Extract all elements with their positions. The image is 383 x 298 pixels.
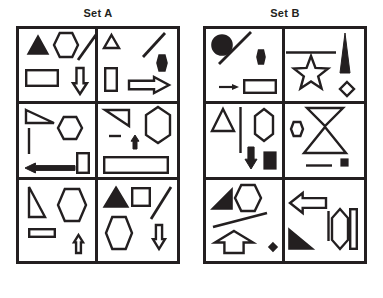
small-hexagon-outline-glyph — [290, 121, 304, 137]
b5-diagonal-line — [212, 212, 268, 228]
filled-right-triangle-glyph — [288, 228, 314, 250]
inverted-triangle-outline-glyph — [306, 107, 344, 127]
a1-rectangle-outline — [25, 69, 59, 87]
right-triangle-outline-glyph — [104, 109, 130, 127]
cell-a5 — [19, 180, 98, 261]
a3-hexagon-outline — [57, 116, 83, 140]
b1-small-right-arrow — [218, 83, 240, 91]
b2-star-outline — [291, 55, 331, 93]
hexagon-outline-glyph — [105, 216, 133, 250]
a3-left-arrow-filled — [24, 162, 76, 174]
a4-elongated-hexagon-outline — [145, 106, 171, 144]
wide-rectangle-outline-glyph — [103, 156, 169, 174]
right-triangle-outline-glyph — [25, 109, 55, 124]
shape-sets-figure: Set ASet B — [0, 0, 383, 298]
b3-triangle-outline — [211, 108, 235, 132]
a2-vertical-rectangle-outline — [104, 67, 118, 92]
rectangle-outline-glyph — [25, 69, 59, 87]
cell-a6 — [98, 180, 177, 261]
right-arrow-outline-glyph — [128, 76, 170, 94]
small-diamond-outline-glyph — [339, 81, 355, 97]
a5-hexagon-outline — [57, 188, 87, 222]
a4-wide-rectangle-outline — [103, 156, 169, 174]
hexagon-outline-glyph — [234, 184, 262, 212]
a1-down-arrow-outline — [72, 67, 88, 95]
small-filled-square-glyph — [340, 158, 349, 167]
filled-triangle-up-glyph — [27, 35, 49, 55]
filled-square-glyph — [263, 151, 277, 170]
small-filled-hexagon-glyph — [156, 54, 168, 72]
set-b-title: Set B — [203, 7, 367, 19]
b4-triangle-outline — [303, 126, 347, 154]
small-filled-hexagon-glyph — [256, 49, 266, 65]
b4-small-hexagon-outline — [290, 121, 304, 137]
a5-small-up-arrow-outline — [73, 234, 84, 254]
vertical-line-glyph — [327, 210, 330, 242]
b1-diagonal-line — [218, 31, 252, 65]
short-horizontal-line-glyph — [108, 135, 122, 137]
set-b-group: Set B — [203, 0, 367, 298]
b4-inverted-triangle-outline — [306, 107, 344, 127]
b3-filled-square — [263, 151, 277, 170]
b5-hexagon-outline — [234, 184, 262, 212]
a6-filled-triangle-up — [103, 186, 129, 208]
diagonal-line-glyph — [150, 186, 172, 220]
elongated-hexagon-outline-glyph — [254, 108, 274, 142]
b5-up-arrow-house-outline — [214, 230, 254, 254]
b4-small-filled-square — [340, 158, 349, 167]
small-triangle-outline-glyph — [103, 34, 120, 49]
hexagon-outline-glyph — [57, 188, 87, 222]
a5-thin-right-triangle-outline — [28, 186, 46, 218]
b6-elongated-hexagon-outline — [331, 208, 349, 250]
star-outline-glyph — [291, 55, 331, 93]
a2-small-triangle-outline — [103, 34, 120, 49]
b6-vertical-rectangle-outline — [349, 208, 358, 250]
cell-b2 — [285, 29, 364, 104]
b2-tall-filled-spike-triangle — [339, 32, 351, 74]
a3-right-triangle-outline — [25, 109, 55, 124]
diagonal-line-glyph — [212, 212, 268, 228]
small-filled-diamond-glyph — [268, 242, 278, 252]
small-rectangle-outline-glyph — [76, 152, 90, 174]
a6-diagonal-line — [150, 186, 172, 220]
hexagon-outline-glyph — [57, 116, 83, 140]
vertical-line-glyph — [239, 106, 242, 154]
small-up-arrow-outline-glyph — [73, 234, 84, 254]
b6-filled-right-triangle — [288, 228, 314, 250]
b3-filled-down-arrow — [244, 146, 258, 170]
diagonal-line-glyph — [77, 31, 98, 61]
set-a-group: Set A — [16, 0, 180, 298]
left-arrow-outline-glyph — [289, 192, 327, 214]
cell-b5 — [206, 180, 285, 261]
b2-small-diamond-outline — [339, 81, 355, 97]
left-arrow-filled-glyph — [24, 162, 76, 174]
small-right-arrow-glyph — [218, 83, 240, 91]
set-a-grid — [16, 26, 180, 264]
filled-triangle-up-glyph — [103, 186, 129, 208]
a3-small-rectangle-outline — [76, 152, 90, 174]
set-b-grid — [203, 26, 367, 264]
horizontal-line-glyph — [305, 164, 333, 167]
tall-filled-spike-triangle-glyph — [339, 32, 351, 74]
b6-left-arrow-outline — [289, 192, 327, 214]
a4-small-up-arrow-filled — [130, 134, 140, 150]
a1-diagonal-line — [77, 31, 98, 61]
square-outline-glyph — [131, 187, 151, 207]
triangle-outline-glyph — [303, 126, 347, 154]
a5-small-rectangle-outline — [28, 228, 56, 238]
cell-a2 — [98, 29, 177, 104]
a1-hexagon-outline — [53, 32, 79, 58]
b4-horizontal-line — [305, 164, 333, 167]
a2-right-arrow-outline — [128, 76, 170, 94]
up-arrow-house-outline-glyph — [214, 230, 254, 254]
cell-a3 — [19, 104, 98, 179]
filled-right-triangle-glyph — [211, 188, 233, 210]
filled-down-arrow-glyph — [244, 146, 258, 170]
triangle-outline-glyph — [211, 108, 235, 132]
b5-filled-right-triangle — [211, 188, 233, 210]
set-a-title: Set A — [16, 7, 180, 19]
a6-hexagon-outline — [105, 216, 133, 250]
a3-vertical-line — [28, 127, 30, 155]
a2-small-filled-hexagon — [156, 54, 168, 72]
down-arrow-outline-glyph — [72, 67, 88, 95]
